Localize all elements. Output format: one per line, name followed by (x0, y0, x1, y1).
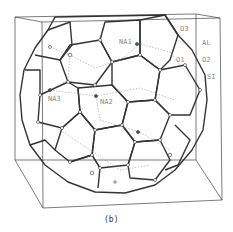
label-si: SI (207, 73, 215, 81)
figure-caption: (b) (104, 215, 118, 224)
dashed-bonds (50, 44, 190, 170)
crystal-cage-diagram: O3 AL O1 O2 SI NA1 NA2 NA3 (b) (0, 0, 233, 232)
label-o2: O2 (202, 56, 210, 64)
label-na1: NA1 (119, 38, 132, 46)
cage-bonds (20, 15, 207, 193)
label-na2: NA2 (100, 98, 113, 106)
label-o3: O3 (180, 25, 188, 33)
label-na3: NA3 (48, 95, 61, 103)
label-al: AL (202, 39, 210, 47)
label-o1: O1 (176, 56, 184, 64)
